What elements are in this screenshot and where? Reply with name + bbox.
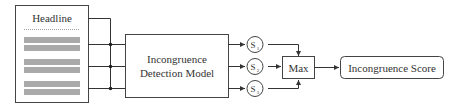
- incongruence-diagram: Headline Incongruence Detection Model: [0, 0, 457, 110]
- document-box: Headline: [16, 6, 89, 103]
- incongruence-score-box: Incongruence Score: [341, 57, 444, 79]
- model-label-line2: Detection Model: [140, 67, 214, 79]
- svg-text:S: S: [250, 84, 255, 94]
- svg-text:S: S: [250, 62, 255, 72]
- score-node-3: S 3: [247, 81, 263, 97]
- model-to-score-arrows: [228, 45, 245, 89]
- model-label-line1: Incongruence: [147, 53, 207, 65]
- max-label: Max: [288, 62, 309, 74]
- output-label: Incongruence Score: [348, 62, 436, 74]
- max-box: Max: [283, 57, 315, 79]
- score-node-1: S 1: [247, 37, 263, 53]
- headline-label: Headline: [32, 12, 72, 24]
- doc-connectors: [88, 19, 125, 89]
- score-node-2: S 2: [247, 59, 263, 75]
- svg-text:S: S: [250, 40, 255, 50]
- detection-model-box: Incongruence Detection Model: [126, 35, 229, 98]
